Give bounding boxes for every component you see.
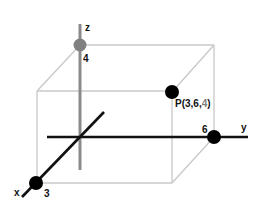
x-axis-point-3 (29, 176, 43, 190)
y-axis-point-6 (207, 130, 221, 144)
coordinate-diagram: z 4 y 6 x 3 P(3,6,4) (0, 0, 262, 217)
3d-coordinate-box-diagram: z 4 y 6 x 3 P(3,6,4) (0, 0, 262, 217)
x-tick-label: 3 (44, 188, 50, 199)
y-axis-label: y (241, 122, 247, 133)
box-edge-bottom-right-diagonal (172, 137, 214, 183)
z-tick-label: 4 (83, 53, 89, 64)
box-edge-top-left-diagonal (37, 45, 80, 91)
x-axis-label: x (14, 187, 20, 198)
rectangular-box (37, 45, 214, 183)
y-tick-label: 6 (202, 124, 208, 135)
z-axis-label: z (85, 22, 90, 33)
point-p-label: P(3,6,4) (175, 98, 211, 109)
point-p (165, 85, 179, 99)
box-edge-top-right-diagonal (172, 45, 214, 92)
point-p-label-prefix: P(3,6, (175, 98, 202, 109)
point-p-label-suffix: ) (207, 98, 210, 109)
z-axis-point-4 (74, 39, 87, 52)
